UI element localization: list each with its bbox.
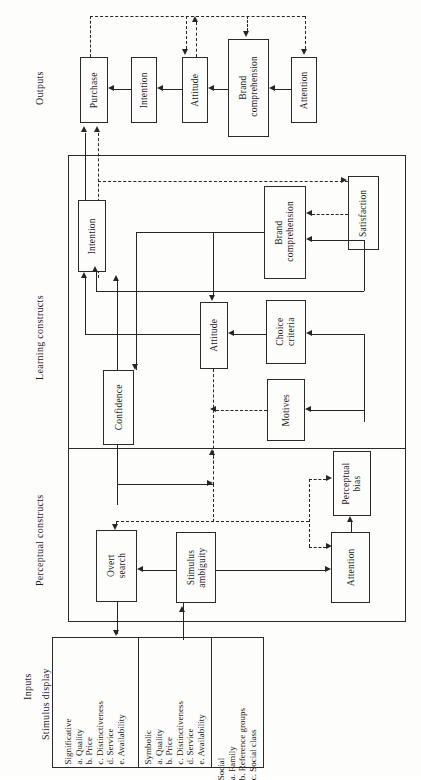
arrow-riser-into-purchase-dashed: [94, 126, 100, 132]
link-stimulusambiguity-to-attention: [216, 570, 325, 571]
output-box-brand-comprehension-label: Brand comprehension: [238, 59, 259, 117]
learning-box-satisfaction[interactable]: Satisfaction: [348, 176, 379, 250]
link-attitude-to-intention-h: [85, 334, 200, 335]
link-stimulusambiguity-riser: [183, 603, 184, 615]
arrow-dashed-to-attention: [326, 543, 332, 549]
output-box-attention[interactable]: Attention: [291, 57, 317, 123]
learning-box-choice-criteria-label: Choice criteria: [275, 313, 296, 351]
inputs-item: b. Price: [164, 737, 175, 765]
arrow-inputs-into-significative: [113, 630, 119, 636]
learning-box-intention-label: Intention: [87, 218, 98, 254]
link-brandcomp-to-attitude-v: [213, 232, 214, 295]
learning-box-confidence[interactable]: Confidence: [103, 370, 134, 445]
link-riser-into-brandcomp-h: [312, 240, 365, 241]
perceptual-box-stimulus-ambiguity[interactable]: Stimulus ambiguity: [176, 532, 216, 603]
arrow-choicecriteria-to-attitude: [228, 330, 234, 336]
link-out-attention-to-brandcomp: [275, 89, 291, 90]
perceptual-box-overt-search[interactable]: Overt search: [96, 530, 137, 602]
inputs-column-significative[interactable]: Significative a. Quality b. Price c. Dis…: [52, 637, 138, 768]
feedback-brandcomp-down-from-bus: [247, 16, 248, 31]
output-box-attitude-label: Attitude: [190, 74, 201, 107]
inputs-item: c. Distinctiveness: [95, 701, 106, 765]
learning-box-confidence-label: Confidence: [113, 385, 124, 431]
output-box-brand-comprehension[interactable]: Brand comprehension: [228, 39, 269, 137]
arrow-brandcomp-to-intention: [92, 266, 98, 272]
feedback-purchase-riser: [90, 16, 91, 57]
arrow-satisfaction-feedback: [341, 177, 347, 183]
link-satisfaction-to-brandcomp: [312, 214, 348, 215]
arrow-out-intention-to-purchase: [108, 85, 114, 91]
right-bus-vertical: [364, 334, 365, 422]
arrow-attention-to-perceptualbias: [347, 516, 353, 522]
link-choicecriteria-to-attitude: [234, 334, 266, 335]
arrow-dashed-center-column-up: [209, 449, 215, 455]
output-box-intention[interactable]: Intention: [131, 57, 157, 123]
output-box-purchase[interactable]: Purchase: [80, 57, 108, 123]
arrow-brandcomp-to-attitude: [209, 295, 215, 301]
link-brandcomp-to-intention-h: [96, 291, 364, 292]
link-out-intention-to-purchase: [114, 89, 131, 90]
inputs-column-social[interactable]: Social a. Family b. Reference groups c. …: [211, 637, 264, 768]
arrow-out-brandcomp-to-attitude: [208, 85, 214, 91]
inputs-item: a. Quality: [74, 729, 85, 765]
arrow-confidence-to-intention: [113, 275, 119, 281]
output-box-attitude[interactable]: Attitude: [182, 57, 208, 123]
arrow-out-attitude-to-intention: [157, 85, 163, 91]
arrow-stimulusambiguity-to-overtsearch: [137, 566, 143, 572]
learning-box-brand-comprehension[interactable]: Brand comprehension: [264, 186, 306, 279]
link-confidence-down-h: [117, 484, 213, 485]
arrow-feedback-into-attitude: [182, 49, 188, 55]
inputs-item: b. Price: [84, 737, 95, 765]
learning-box-choice-criteria[interactable]: Choice criteria: [266, 300, 306, 364]
inputs-column-symbolic[interactable]: Symbolic a. Quality b. Price c. Distinct…: [138, 637, 211, 768]
arrow-stimulusambiguity-to-attention: [325, 566, 331, 572]
link-motives-to-attitude: [216, 410, 267, 411]
inputs-item: b. Reference groups: [238, 708, 249, 780]
perceptual-box-perceptual-bias[interactable]: Perceptual bias: [333, 451, 371, 516]
perceptual-box-attention[interactable]: Attention: [331, 532, 370, 603]
perceptual-box-attention-label: Attention: [345, 549, 356, 587]
inputs-item: e. Availability: [116, 715, 127, 765]
learning-box-attitude[interactable]: Attitude: [200, 302, 228, 369]
arrow-brandcomp-to-confidence: [132, 364, 138, 370]
perceptual-box-stimulus-ambiguity-label: Stimulus ambiguity: [185, 547, 206, 587]
arrow-dashed-into-overtsearch: [112, 524, 118, 530]
arrow-bus-to-choicecriteria: [306, 330, 312, 336]
arrow-riser-into-purchase-solid: [81, 126, 87, 132]
output-box-attention-label: Attention: [299, 71, 310, 109]
arrow-feedback-attitude-riser: [192, 16, 198, 22]
feedback-attention-down-from-bus: [305, 16, 306, 49]
feedback-attitude-down-from-bus: [186, 16, 187, 49]
dashed-bracket-to-attention: [309, 547, 326, 548]
section-caption-learning-constructs: Learning constructs: [34, 295, 45, 380]
inputs-item: d. Service: [106, 729, 117, 765]
inputs-item: a. Quality: [153, 729, 164, 765]
link-brandcomp-to-intention-v: [96, 272, 97, 291]
link-symbolic-to-stimulusambiguity: [183, 612, 184, 640]
dashed-bracket-vertical: [309, 479, 310, 547]
inputs-column-significative-heading: Significative: [63, 719, 74, 765]
learning-box-attitude-label: Attitude: [209, 319, 220, 352]
inputs-item: e. Availability: [196, 715, 207, 765]
riser-learning-intention-to-purchase: [85, 133, 86, 201]
link-brandcomp-branch-to-confidence: [136, 232, 137, 370]
learning-box-motives[interactable]: Motives: [267, 379, 305, 441]
learning-box-motives-label: Motives: [281, 394, 292, 427]
inputs-item: a. Family: [227, 746, 238, 780]
inputs-column-social-heading: Social: [216, 757, 227, 780]
link-out-attitude-to-intention: [163, 89, 182, 90]
learning-box-intention[interactable]: Intention: [78, 200, 106, 272]
dashed-bracket-to-perceptualbias: [309, 479, 326, 480]
inputs-column-symbolic-heading: Symbolic: [143, 730, 154, 765]
arrow-out-attention-to-brandcomp: [269, 85, 275, 91]
output-box-intention-label: Intention: [139, 72, 150, 108]
link-attitude-to-intention-v: [85, 278, 86, 334]
link-feedback-riser-to-brandcomp: [364, 240, 365, 291]
output-box-purchase-label: Purchase: [89, 72, 100, 108]
link-bus-to-choicecriteria: [312, 334, 365, 335]
section-caption-perceptual-constructs: Perceptual constructs: [34, 494, 45, 586]
section-caption-outputs: Outputs: [34, 71, 45, 105]
link-confidence-down: [117, 445, 118, 505]
link-stimulusambiguity-to-overtsearch: [143, 570, 176, 571]
